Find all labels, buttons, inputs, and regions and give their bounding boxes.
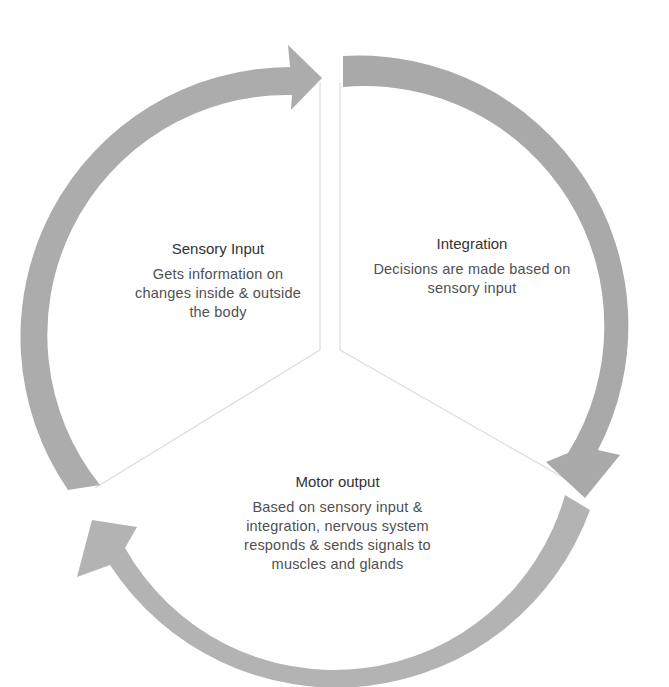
segment-title: Integration bbox=[372, 235, 572, 252]
segment-title: Sensory Input bbox=[128, 240, 308, 257]
segment-description: Decisions are made based on sensory inpu… bbox=[372, 260, 572, 298]
segment-motor-output: Motor output Based on sensory input & in… bbox=[215, 473, 460, 574]
cycle-arrows bbox=[0, 0, 669, 687]
segment-description: Gets information on changes inside & out… bbox=[128, 265, 308, 322]
segment-sensory-input: Sensory Input Gets information on change… bbox=[128, 240, 308, 322]
segment-description: Based on sensory input & integration, ne… bbox=[215, 498, 460, 574]
nervous-system-cycle-diagram: Sensory Input Gets information on change… bbox=[0, 0, 669, 687]
segment-integration: Integration Decisions are made based on … bbox=[372, 235, 572, 298]
segment-title: Motor output bbox=[215, 473, 460, 490]
